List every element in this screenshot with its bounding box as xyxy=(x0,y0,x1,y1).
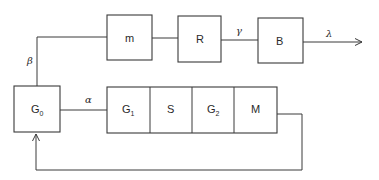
block-g0-label: G xyxy=(31,103,40,115)
block-s-label: S xyxy=(167,103,174,115)
edge-label-lambda: λ xyxy=(325,28,332,39)
edge-label-alpha: α xyxy=(85,94,92,105)
block-mm-label: M xyxy=(251,103,260,115)
block-m: m xyxy=(107,15,152,60)
block-m-label: m xyxy=(125,32,134,44)
block-strip: G1 S G2 M xyxy=(107,87,277,133)
block-g2-label: G xyxy=(207,103,216,115)
block-r-label: R xyxy=(196,33,204,45)
block-b: B xyxy=(258,18,303,63)
block-b-label: B xyxy=(276,35,283,47)
edge-label-beta: β xyxy=(26,55,33,66)
block-diagram: G0 m R B G1 S G2 M β α γ λ xyxy=(0,0,379,180)
block-g0: G0 xyxy=(14,86,60,132)
block-g2-sub: 2 xyxy=(216,110,220,117)
edge-label-gamma: γ xyxy=(236,25,242,36)
wire-g0-to-m xyxy=(37,37,107,86)
block-r: R xyxy=(178,16,221,62)
block-g0-sub: 0 xyxy=(40,110,44,117)
block-g1-sub: 1 xyxy=(131,110,135,117)
block-g1-label: G xyxy=(122,103,131,115)
